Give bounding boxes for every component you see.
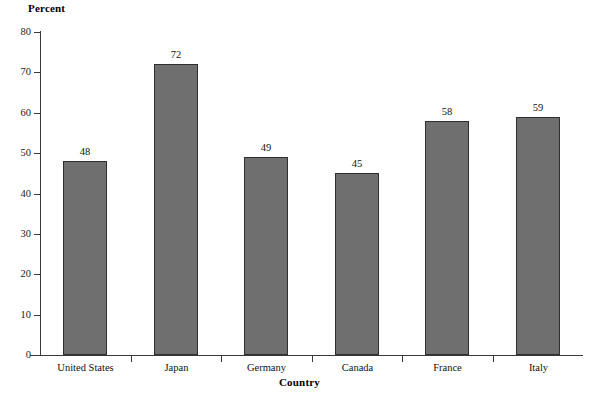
y-axis-tick: [34, 194, 40, 195]
bar: [516, 117, 560, 355]
x-axis-category-label: Canada: [312, 362, 403, 374]
bar-value-label: 72: [146, 49, 206, 60]
y-axis-tick-label: 80: [1, 27, 31, 37]
bar-value-label: 45: [327, 158, 387, 169]
bar-value-label: 59: [508, 102, 568, 113]
bar-value-label: 49: [236, 142, 296, 153]
bar: [63, 161, 107, 355]
x-axis-category-label: France: [402, 362, 493, 374]
bar-chart: Percent 01020304050607080 487249455859 U…: [0, 0, 599, 396]
x-axis-title: Country: [0, 376, 599, 388]
bar: [154, 64, 198, 355]
y-axis-tick-label: 50: [1, 148, 31, 158]
y-axis-tick: [34, 355, 40, 356]
bar: [335, 173, 379, 355]
x-axis-category-label: United States: [40, 362, 131, 374]
y-axis-tick: [34, 234, 40, 235]
y-axis-tick-label: 70: [1, 67, 31, 77]
y-axis-tick-label: 30: [1, 229, 31, 239]
y-axis-line: [40, 31, 41, 356]
y-axis-tick: [34, 32, 40, 33]
bar: [244, 157, 288, 355]
x-axis-category-label: Germany: [221, 362, 312, 374]
y-axis-title: Percent: [28, 2, 65, 14]
bar-value-label: 58: [417, 106, 477, 117]
bar-value-label: 48: [55, 146, 115, 157]
x-axis-line: [30, 355, 583, 356]
y-axis-tick: [34, 113, 40, 114]
y-axis-tick-label: 40: [1, 189, 31, 199]
y-axis-tick-label: 0: [1, 350, 31, 360]
y-axis-tick: [34, 315, 40, 316]
y-axis-tick-label: 20: [1, 269, 31, 279]
x-axis-category-label: Japan: [131, 362, 222, 374]
y-axis-tick: [34, 274, 40, 275]
y-axis-tick-label: 10: [1, 310, 31, 320]
y-axis-tick-label: 60: [1, 108, 31, 118]
x-axis-category-label: Italy: [493, 362, 584, 374]
y-axis-tick: [34, 153, 40, 154]
y-axis-tick: [34, 72, 40, 73]
bar: [425, 121, 469, 355]
